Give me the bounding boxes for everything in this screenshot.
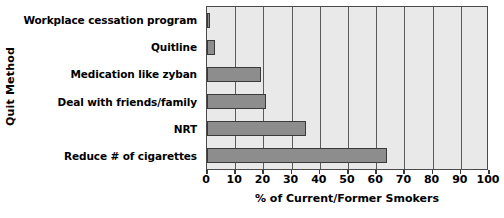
bar <box>207 148 387 163</box>
x-tick-label: 30 <box>283 173 298 186</box>
bar <box>207 40 215 55</box>
bar <box>207 67 261 82</box>
y-axis-category-labels: Workplace cessation program Quitline Med… <box>22 6 202 170</box>
bar <box>207 94 266 109</box>
bars-layer <box>207 7 487 169</box>
y-axis-title: Quit Method <box>0 0 22 172</box>
x-tick-label: 80 <box>424 173 439 186</box>
category-label: Quitline <box>22 33 202 60</box>
bar <box>207 13 210 28</box>
category-label: Reduce # of cigarettes <box>22 143 202 170</box>
category-label: Medication like zyban <box>22 61 202 88</box>
y-axis-title-text: Quit Method <box>5 46 18 125</box>
x-tick-label: 0 <box>202 173 210 186</box>
bar-row <box>207 7 487 34</box>
x-tick-label: 40 <box>311 173 326 186</box>
x-tick-label: 90 <box>452 173 467 186</box>
x-tick-label: 60 <box>368 173 383 186</box>
category-label: Deal with friends/family <box>22 88 202 115</box>
bar <box>207 121 306 136</box>
category-label: Workplace cessation program <box>22 6 202 33</box>
bar-row <box>207 142 487 169</box>
x-tick-label: 100 <box>477 173 500 186</box>
bar-chart: Quit Method Workplace cessation program … <box>0 0 504 218</box>
x-axis-title: % of Current/Former Smokers <box>206 192 488 205</box>
x-tick-label: 10 <box>227 173 242 186</box>
x-axis-tick-labels: 0102030405060708090100 <box>206 173 488 189</box>
x-tick-label: 70 <box>396 173 411 186</box>
category-label: NRT <box>22 115 202 142</box>
bar-row <box>207 34 487 61</box>
x-tick-label: 50 <box>339 173 354 186</box>
bar-row <box>207 88 487 115</box>
bar-row <box>207 61 487 88</box>
plot-area <box>206 6 488 170</box>
bar-row <box>207 115 487 142</box>
x-tick-label: 20 <box>255 173 270 186</box>
